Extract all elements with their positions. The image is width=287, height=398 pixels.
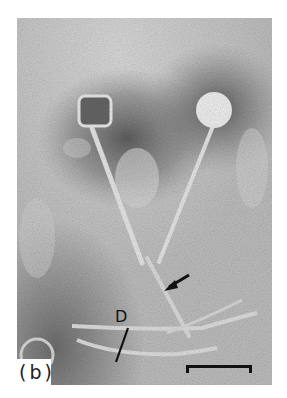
micrograph-image (17, 18, 272, 385)
panel-label: (b) (19, 361, 55, 383)
micrograph-panel (17, 18, 272, 385)
d-annotation-label: D (115, 307, 127, 326)
